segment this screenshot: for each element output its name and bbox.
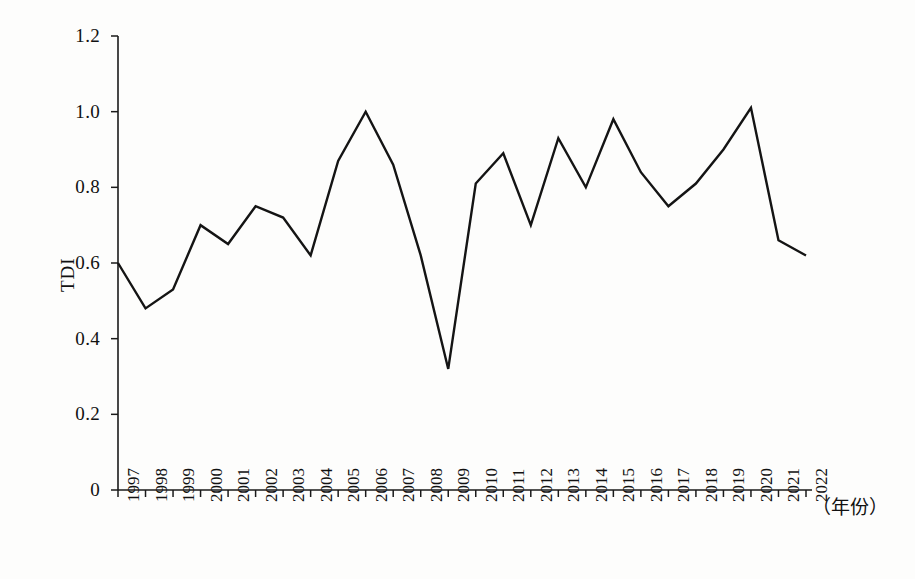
x-tick-label: 2012 (538, 468, 555, 502)
x-tick-label: 2016 (648, 468, 665, 502)
x-tick-label: 1998 (153, 468, 170, 502)
x-tick-label: 2021 (785, 468, 802, 502)
x-tick-label: 2014 (593, 468, 610, 502)
x-tick-label: 2008 (428, 468, 445, 502)
x-tick-label: 2003 (290, 468, 307, 502)
x-tick-label: 1999 (180, 468, 197, 502)
y-tick-label: 0 (40, 480, 100, 499)
x-tick-label: 2013 (565, 468, 582, 502)
x-tick-label: 2005 (345, 468, 362, 502)
x-tick-label: 2017 (675, 468, 692, 502)
x-tick-label: 2001 (235, 468, 252, 502)
x-tick-label: 2011 (510, 469, 527, 502)
y-tick-label: 1.0 (40, 102, 100, 121)
series-line-tdi (118, 108, 806, 369)
x-tick-label: 2018 (703, 468, 720, 502)
y-tick-label: 0.6 (40, 253, 100, 272)
y-tick-label: 0.2 (40, 404, 100, 423)
x-tick-label: 2006 (373, 468, 390, 502)
x-tick-label: 2015 (620, 468, 637, 502)
data-series-group (118, 108, 806, 369)
x-tick-label: 2007 (400, 468, 417, 502)
y-tick-label: 0.8 (40, 177, 100, 196)
x-tick-label: 2000 (208, 468, 225, 502)
x-tick-label: 2004 (318, 468, 335, 502)
y-tick-label: 1.2 (40, 26, 100, 45)
y-axis-ticks (111, 36, 118, 490)
y-tick-label: 0.4 (40, 329, 100, 348)
x-tick-label: 1997 (125, 468, 142, 502)
chart-figure: TDI （年份） 00.20.40.60.81.01.2 19971998199… (0, 0, 915, 579)
x-tick-label: 2020 (758, 468, 775, 502)
x-tick-label: 2019 (730, 468, 747, 502)
x-tick-label: 2009 (455, 468, 472, 502)
x-tick-label: 2002 (263, 468, 280, 502)
x-tick-label: 2022 (813, 468, 830, 502)
x-tick-label: 2010 (483, 468, 500, 502)
